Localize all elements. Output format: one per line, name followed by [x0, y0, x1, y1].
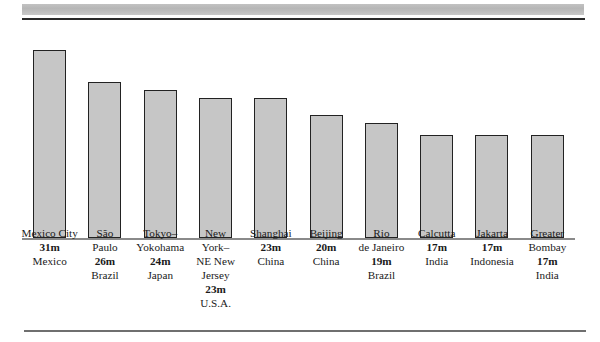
bar-slot: [299, 40, 354, 238]
bar[interactable]: [144, 90, 177, 238]
bar-slot: [77, 40, 132, 238]
bars-container: [22, 40, 575, 238]
city-name-line: Bombay: [515, 240, 579, 254]
bar-slot: [354, 40, 409, 238]
bar-slot: [133, 40, 188, 238]
bar[interactable]: [88, 82, 121, 238]
category-labels: Mexico City31mMexicoSãoPaulo26mBrazilTok…: [0, 226, 600, 336]
country-name: U.S.A.: [184, 296, 248, 310]
bar[interactable]: [254, 98, 287, 238]
bar-slot: [520, 40, 575, 238]
plot-area: [0, 20, 600, 220]
decorative-top-band: [22, 4, 584, 15]
bar[interactable]: [531, 135, 564, 238]
bar-slot: [22, 40, 77, 238]
bar[interactable]: [33, 50, 66, 238]
bar[interactable]: [365, 123, 398, 238]
city-name-line: Jersey: [184, 268, 248, 282]
bottom-horizontal-rule: [24, 330, 586, 332]
bar-chart-figure: Mexico City31mMexicoSãoPaulo26mBrazilTok…: [0, 0, 600, 342]
bar[interactable]: [475, 135, 508, 238]
bar[interactable]: [420, 135, 453, 238]
bar-slot: [243, 40, 298, 238]
bar[interactable]: [310, 115, 343, 238]
population-value: 17m: [515, 254, 579, 268]
city-name-line: Greater: [515, 226, 579, 240]
population-value: 23m: [184, 282, 248, 296]
country-name: Brazil: [349, 268, 413, 282]
bar-slot: [409, 40, 464, 238]
bar-slot: [464, 40, 519, 238]
country-name: India: [515, 268, 579, 282]
bar[interactable]: [199, 98, 232, 238]
category-label: GreaterBombay17mIndia: [515, 226, 579, 282]
bar-slot: [188, 40, 243, 238]
